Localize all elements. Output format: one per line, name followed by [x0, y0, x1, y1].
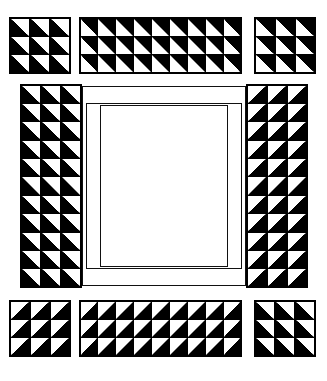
half-square-triangle-unit [206, 55, 223, 72]
half-square-triangle-unit [134, 37, 151, 54]
half-square-triangle-unit [224, 37, 241, 54]
half-square-triangle-unit [62, 104, 81, 121]
half-square-triangle-unit [296, 302, 315, 319]
half-square-triangle-unit [42, 214, 61, 231]
half-square-triangle-unit [170, 37, 187, 54]
half-square-triangle-unit [248, 269, 267, 286]
half-square-triangle-unit [224, 19, 241, 36]
bottom-right-corner-block[interactable] [254, 300, 316, 357]
half-square-triangle-unit [62, 122, 81, 139]
half-square-triangle-unit [42, 177, 61, 194]
half-square-triangle-unit [268, 141, 287, 158]
top-border-strip[interactable] [79, 17, 242, 74]
half-square-triangle-unit [116, 37, 133, 54]
half-square-triangle-unit [42, 269, 61, 286]
half-square-triangle-unit [276, 55, 295, 72]
half-square-triangle-unit [11, 55, 30, 72]
half-square-triangle-unit [288, 141, 307, 158]
half-square-triangle-unit [256, 55, 275, 72]
half-square-triangle-unit [170, 55, 187, 72]
half-square-triangle-unit [116, 338, 133, 355]
half-square-triangle-unit [224, 55, 241, 72]
half-square-triangle-unit [248, 251, 267, 268]
half-square-triangle-unit [11, 320, 30, 337]
half-square-triangle-unit [42, 196, 61, 213]
half-square-triangle-unit [22, 214, 41, 231]
quilt-center-panel [100, 105, 228, 267]
half-square-triangle-unit [31, 302, 50, 319]
half-square-triangle-unit [22, 196, 41, 213]
half-square-triangle-unit [31, 55, 50, 72]
half-square-triangle-unit [296, 55, 315, 72]
half-square-triangle-unit [224, 302, 241, 319]
half-square-triangle-unit [42, 159, 61, 176]
half-square-triangle-unit [170, 302, 187, 319]
half-square-triangle-unit [31, 37, 50, 54]
half-square-triangle-unit [62, 251, 81, 268]
half-square-triangle-unit [268, 122, 287, 139]
half-square-triangle-unit [268, 177, 287, 194]
half-square-triangle-unit [22, 177, 41, 194]
half-square-triangle-unit [152, 302, 169, 319]
half-square-triangle-unit [22, 159, 41, 176]
half-square-triangle-unit [42, 104, 61, 121]
half-square-triangle-unit [276, 19, 295, 36]
half-square-triangle-unit [256, 338, 275, 355]
half-square-triangle-unit [288, 269, 307, 286]
half-square-triangle-unit [98, 55, 115, 72]
half-square-triangle-unit [268, 86, 287, 103]
half-square-triangle-unit [268, 251, 287, 268]
half-square-triangle-unit [98, 37, 115, 54]
left-border-panel[interactable] [20, 84, 82, 288]
half-square-triangle-unit [288, 214, 307, 231]
half-square-triangle-unit [170, 320, 187, 337]
half-square-triangle-unit [248, 122, 267, 139]
half-square-triangle-unit [62, 177, 81, 194]
half-square-triangle-unit [62, 86, 81, 103]
half-square-triangle-unit [276, 320, 295, 337]
diagram-title: Pieced Border Quilt Layout [0, 0, 1, 1]
half-square-triangle-unit [206, 19, 223, 36]
half-square-triangle-unit [116, 320, 133, 337]
half-square-triangle-unit [296, 37, 315, 54]
half-square-triangle-unit [248, 159, 267, 176]
half-square-triangle-unit [62, 214, 81, 231]
half-square-triangle-unit [268, 159, 287, 176]
top-left-corner-block[interactable] [9, 17, 71, 74]
half-square-triangle-unit [152, 338, 169, 355]
half-square-triangle-unit [268, 104, 287, 121]
half-square-triangle-unit [22, 269, 41, 286]
half-square-triangle-unit [134, 55, 151, 72]
half-square-triangle-unit [188, 55, 205, 72]
half-square-triangle-unit [248, 86, 267, 103]
half-square-triangle-unit [268, 196, 287, 213]
half-square-triangle-unit [288, 122, 307, 139]
half-square-triangle-unit [98, 338, 115, 355]
half-square-triangle-unit [296, 19, 315, 36]
bottom-border-strip[interactable] [79, 300, 242, 357]
half-square-triangle-unit [206, 302, 223, 319]
half-square-triangle-unit [22, 86, 41, 103]
half-square-triangle-unit [22, 141, 41, 158]
half-square-triangle-unit [256, 19, 275, 36]
bottom-left-corner-block[interactable] [9, 300, 71, 357]
half-square-triangle-unit [268, 233, 287, 250]
half-square-triangle-unit [206, 338, 223, 355]
half-square-triangle-unit [288, 104, 307, 121]
half-square-triangle-unit [248, 233, 267, 250]
half-square-triangle-unit [152, 320, 169, 337]
half-square-triangle-unit [256, 320, 275, 337]
half-square-triangle-unit [206, 37, 223, 54]
half-square-triangle-unit [51, 37, 70, 54]
right-border-panel[interactable] [246, 84, 308, 288]
half-square-triangle-unit [248, 214, 267, 231]
half-square-triangle-unit [31, 320, 50, 337]
half-square-triangle-unit [11, 302, 30, 319]
half-square-triangle-unit [248, 177, 267, 194]
half-square-triangle-unit [248, 104, 267, 121]
top-right-corner-block[interactable] [254, 17, 316, 74]
half-square-triangle-unit [288, 251, 307, 268]
half-square-triangle-unit [268, 269, 287, 286]
half-square-triangle-unit [81, 338, 98, 355]
half-square-triangle-unit [42, 233, 61, 250]
